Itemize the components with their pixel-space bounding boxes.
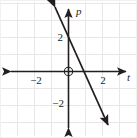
y-tick-label-neg-two: −2 xyxy=(52,97,64,109)
graph-figure: p t −2 2 2 −2 xyxy=(0,0,137,138)
x-tick-label-pos-two: 2 xyxy=(100,74,106,86)
coordinate-plane-svg: p t −2 2 2 −2 xyxy=(0,0,137,138)
y-tick-label-pos-two: 2 xyxy=(58,31,64,43)
p-axis-label: p xyxy=(75,5,82,17)
x-tick-label-neg-two: −2 xyxy=(30,74,42,86)
